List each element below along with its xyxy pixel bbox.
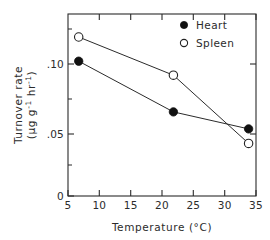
- legend-marker-heart: [180, 21, 187, 28]
- y-axis-unit-mid: hr: [25, 84, 37, 100]
- y-axis-unit-prefix: (µg g: [25, 109, 37, 139]
- data-point-heart: [244, 125, 252, 133]
- y-axis-ticks: [68, 29, 74, 196]
- x-axis-ticks-top: [99, 14, 256, 20]
- x-tick-label: 35: [249, 199, 263, 211]
- data-point-heart: [75, 57, 83, 65]
- x-tick-labels: 5 10 15 20 25 30 35: [65, 199, 263, 211]
- data-point-spleen: [244, 139, 252, 147]
- x-tick-label: 5: [65, 199, 72, 211]
- series-spleen: [75, 33, 253, 148]
- y-tick-label: .05: [47, 128, 64, 140]
- y-axis-unit-sup2: -1: [24, 75, 33, 84]
- x-axis-title: Temperature (°C): [111, 221, 212, 233]
- legend-label-heart: Heart: [196, 19, 227, 31]
- chart-figure: 5 10 15 20 25 30 35 0 .05 .10 Temperatur…: [0, 0, 270, 240]
- y-axis-unit-sup1: -1: [24, 100, 33, 109]
- y-axis-unit-suffix: ): [25, 71, 37, 76]
- legend-marker-spleen: [180, 39, 187, 46]
- x-tick-label: 10: [92, 199, 106, 211]
- x-tick-label: 25: [186, 199, 200, 211]
- turnover-rate-line-chart: 5 10 15 20 25 30 35 0 .05 .10 Temperatur…: [0, 0, 270, 240]
- legend-label-spleen: Spleen: [196, 37, 234, 49]
- y-axis-title-line1: Turnover rate: [12, 66, 24, 145]
- y-tick-labels: 0 .05 .10: [47, 58, 64, 202]
- data-point-spleen: [75, 33, 83, 41]
- y-axis-title: Turnover rate (µg g-1 hr-1): [12, 66, 37, 145]
- data-point-heart: [169, 108, 177, 116]
- y-axis-title-line2: (µg g-1 hr-1): [24, 71, 37, 140]
- x-tick-label: 20: [155, 199, 169, 211]
- x-tick-label: 30: [218, 199, 232, 211]
- y-axis-ticks-right: [250, 64, 256, 134]
- series-heart: [75, 57, 253, 133]
- y-tick-label: .10: [47, 58, 64, 70]
- x-axis-ticks: [68, 190, 256, 196]
- chart-legend: Heart Spleen: [180, 19, 234, 49]
- series-spleen-line: [79, 37, 249, 143]
- y-tick-label: 0: [57, 190, 64, 202]
- x-tick-label: 15: [124, 199, 138, 211]
- data-point-spleen: [169, 71, 177, 79]
